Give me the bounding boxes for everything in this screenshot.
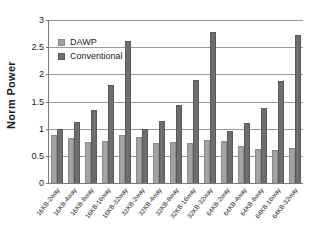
bar-group	[151, 20, 168, 183]
bar-conventional	[142, 129, 148, 183]
legend-label-conventional: Conventional	[70, 52, 123, 61]
bar-conventional	[193, 80, 199, 183]
y-tick-label: 0.5	[31, 151, 44, 160]
bar-conventional	[278, 81, 284, 183]
bar-conventional	[176, 105, 182, 183]
y-tick-label: 2	[39, 70, 44, 79]
bar-group	[201, 20, 218, 183]
y-axis-title: Norm Power	[0, 0, 22, 190]
bar-group	[269, 20, 286, 183]
bar-conventional	[74, 122, 80, 183]
x-axis-labels: 16KB-2way16KB-4way16KB-8way16KB-16way16K…	[48, 185, 302, 236]
bar-conventional	[295, 35, 301, 183]
y-tick-label: 1	[39, 124, 44, 133]
legend-item-conventional: Conventional	[58, 52, 123, 61]
bar-conventional	[244, 123, 250, 183]
y-tick-label: 2.5	[31, 43, 44, 52]
bar-chart: Norm Power 00.511.522.53 DAWP Convention…	[0, 0, 311, 236]
y-axis-title-text: Norm Power	[5, 61, 17, 129]
y-tick-label: 1.5	[31, 97, 44, 106]
bar-group	[134, 20, 151, 183]
bar-conventional	[227, 131, 233, 183]
legend-label-dawp: DAWP	[70, 38, 97, 47]
legend-swatch-icon-conventional	[58, 53, 65, 60]
y-tick-label: 0	[39, 179, 44, 188]
bar-conventional	[108, 85, 114, 183]
bar-group	[218, 20, 235, 183]
bar-group	[235, 20, 252, 183]
y-tick-mark	[46, 183, 49, 184]
legend-item-dawp: DAWP	[58, 38, 123, 47]
x-label-slot: 64KB-32way	[285, 185, 302, 236]
y-tick-label: 3	[39, 16, 44, 25]
bar-conventional	[210, 32, 216, 183]
bar-group	[185, 20, 202, 183]
bar-conventional	[261, 108, 267, 183]
bar-conventional	[91, 110, 97, 183]
bar-conventional	[159, 121, 165, 183]
bar-group	[286, 20, 303, 183]
chart-legend: DAWP Conventional	[58, 38, 123, 61]
bar-group	[252, 20, 269, 183]
legend-swatch-icon-dawp	[58, 39, 65, 46]
bar-conventional	[57, 129, 63, 183]
bar-conventional	[125, 41, 131, 183]
bar-group	[168, 20, 185, 183]
